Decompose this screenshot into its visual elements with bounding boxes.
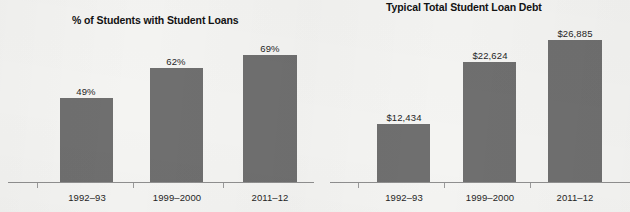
bar [150, 68, 203, 182]
bar-value-label: 49% [56, 86, 116, 97]
x-axis-tick [444, 183, 445, 188]
chart-panel-total-student-loan-debt: Typical Total Student Loan Debt $12,434 … [316, 0, 630, 212]
x-axis-line-right [330, 182, 630, 183]
bar-value-label: 62% [146, 56, 206, 67]
bar [60, 98, 113, 182]
chart-panel-student-loan-percentage: % of Students with Student Loans 49% 62%… [0, 0, 316, 212]
bar-value-label: $26,885 [540, 28, 610, 39]
bar [243, 55, 297, 182]
bar [548, 40, 602, 182]
bar-value-label: $12,434 [369, 112, 439, 123]
bar-value-label: 69% [240, 43, 300, 54]
x-axis-category-label: 1992–93 [52, 192, 122, 203]
x-axis-category-label: 1992–93 [369, 192, 439, 203]
x-axis-line-left [8, 182, 314, 183]
x-axis-category-label: 1999–2000 [449, 192, 531, 203]
plot-area-right: $12,434 $22,624 $26,885 1992–93 1999–200… [316, 0, 630, 212]
x-axis-tick [530, 183, 531, 188]
x-axis-tick [37, 183, 38, 188]
bar-value-label: $22,624 [455, 50, 525, 61]
x-axis-category-label: 1999–2000 [136, 192, 218, 203]
plot-area-left: 49% 62% 69% 1992–93 1999–2000 2011–12 [0, 0, 316, 212]
x-axis-category-label: 2011–12 [542, 192, 608, 203]
bar [377, 124, 430, 182]
dual-bar-chart-figure: % of Students with Student Loans 49% 62%… [0, 0, 630, 212]
bar [463, 62, 516, 182]
x-axis-tick [133, 183, 134, 188]
x-axis-tick [223, 183, 224, 188]
x-axis-tick [358, 183, 359, 188]
x-axis-category-label: 2011–12 [237, 192, 303, 203]
